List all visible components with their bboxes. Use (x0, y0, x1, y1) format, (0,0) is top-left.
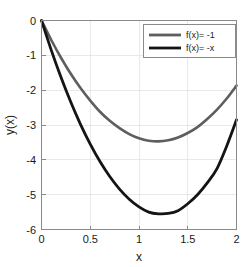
y-tick-label-6: -6 (26, 224, 36, 236)
y-tick-label-4: -4 (26, 154, 36, 166)
x-tick-labels: 0 0.5 1 1.5 2 (38, 233, 239, 245)
y-tick-marks (42, 21, 46, 230)
figure-canvas: 0 0.5 1 1.5 2 0 -1 -2 -3 -4 -5 -6 x y(x)… (0, 0, 251, 267)
x-tick-label-3: 1.5 (180, 233, 195, 245)
y-axis-title: y(x) (3, 115, 17, 135)
x-tick-label-2: 1 (136, 233, 142, 245)
y-tick-label-2: -2 (26, 84, 36, 96)
x-tick-label-1: 0.5 (83, 233, 98, 245)
legend-label-fx-minus-1: f(x)= -1 (186, 30, 215, 40)
y-tick-label-3: -3 (26, 119, 36, 131)
x-tick-marks (42, 226, 237, 230)
legend[interactable]: f(x)= -1 f(x)= -x (144, 25, 236, 58)
legend-label-fx-minus-x: f(x)= -x (186, 43, 215, 53)
x-tick-label-4: 2 (233, 233, 239, 245)
y-tick-label-1: -1 (26, 49, 36, 61)
x-axis-title: x (136, 250, 142, 264)
plot-area: 0 0.5 1 1.5 2 0 -1 -2 -3 -4 -5 -6 x y(x)… (0, 0, 251, 267)
y-tick-labels: 0 -1 -2 -3 -4 -5 -6 (26, 15, 36, 236)
y-tick-label-5: -5 (26, 189, 36, 201)
y-tick-label-0: 0 (30, 15, 36, 27)
x-tick-label-0: 0 (38, 233, 44, 245)
